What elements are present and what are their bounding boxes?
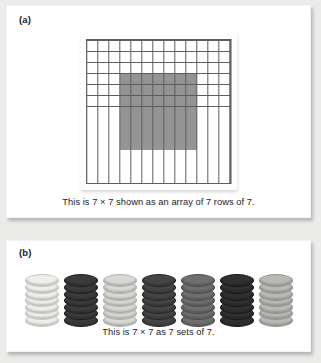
grid-cell [175, 41, 185, 51]
grid-cell-shaded [142, 96, 152, 106]
grid-cell [98, 150, 108, 160]
grid-cell [98, 139, 108, 149]
grid-cell-shaded [153, 107, 163, 117]
grid-cell [109, 63, 119, 73]
grid-cell [219, 117, 229, 127]
panel-b-label: (b) [19, 247, 31, 258]
grid-cell [208, 52, 218, 62]
grid-cell [186, 161, 196, 171]
grid-cell [87, 117, 97, 127]
grid-cell [153, 172, 163, 182]
grid-cell [208, 172, 218, 182]
grid-cell [87, 150, 97, 160]
grid-cell [120, 63, 130, 73]
grid-cell [87, 85, 97, 95]
grid-cell [109, 41, 119, 51]
grid-cell-shaded [142, 139, 152, 149]
grid-cell-shaded [175, 139, 185, 149]
counter-stacks [7, 267, 310, 327]
grid-cell [98, 74, 108, 84]
grid-cell-shaded [164, 128, 174, 138]
grid-cell [153, 52, 163, 62]
grid-cell [197, 96, 207, 106]
grid-cell [98, 96, 108, 106]
grid-cell-shaded [142, 128, 152, 138]
grid-cell [120, 41, 130, 51]
grid-cell [219, 161, 229, 171]
grid-cell-shaded [142, 74, 152, 84]
grid-cell [142, 161, 152, 171]
grid-cell [109, 74, 119, 84]
grid-cell [109, 161, 119, 171]
grid-cell [208, 117, 218, 127]
grid-cell-shaded [164, 74, 174, 84]
grid-cell [197, 85, 207, 95]
grid-cell [87, 172, 97, 182]
panel-b-caption: This is 7 × 7 as 7 sets of 7. [7, 327, 310, 337]
figure-page: (a) This is 7 × 7 shown as an array of 7… [0, 0, 321, 363]
stack-5 [181, 269, 215, 327]
grid-cell-shaded [153, 74, 163, 84]
panel-b: (b) This is 7 × 7 as 7 sets of 7. [6, 240, 311, 352]
panel-a: (a) This is 7 × 7 shown as an array of 7… [6, 5, 311, 218]
grid-cell [98, 172, 108, 182]
grid-cell [131, 41, 141, 51]
grid-cell [98, 52, 108, 62]
grid-cell [208, 63, 218, 73]
grid-cell [197, 52, 207, 62]
grid-cell [153, 63, 163, 73]
grid-cell [208, 128, 218, 138]
grid-cell [142, 172, 152, 182]
grid-cell-shaded [153, 128, 163, 138]
grid-cell [186, 172, 196, 182]
stack-3 [103, 269, 137, 327]
grid-cell-shaded [142, 107, 152, 117]
grid-cell [131, 161, 141, 171]
grid-cell [109, 150, 119, 160]
grid-cell-shaded [142, 85, 152, 95]
grid-cell [87, 52, 97, 62]
grid-cell [87, 139, 97, 149]
grid-cell [109, 172, 119, 182]
grid-cell [219, 74, 229, 84]
grid-cell-shaded [164, 96, 174, 106]
grid-cell [219, 41, 229, 51]
grid-cell [131, 63, 141, 73]
grid-cell [164, 150, 174, 160]
grid-cell-shaded [186, 107, 196, 117]
grid-cell [109, 139, 119, 149]
grid-cell [164, 63, 174, 73]
grid-cell [219, 128, 229, 138]
grid-cell [219, 85, 229, 95]
grid-cell [175, 150, 185, 160]
grid-cell [87, 96, 97, 106]
grid-cell-shaded [186, 139, 196, 149]
grid-cell [142, 150, 152, 160]
grid-cell [142, 63, 152, 73]
grid-cell [208, 139, 218, 149]
grid-cell [87, 107, 97, 117]
grid-cell [219, 107, 229, 117]
grid-cell [109, 128, 119, 138]
grid-cell [197, 63, 207, 73]
grid-cell-shaded [175, 128, 185, 138]
grid-cell [131, 52, 141, 62]
grid-cell [208, 96, 218, 106]
array-grid [86, 39, 231, 184]
grid-cell-shaded [175, 74, 185, 84]
grid-cell [208, 107, 218, 117]
stack-7 [259, 269, 293, 327]
grid-cell-shaded [120, 107, 130, 117]
grid-cell-shaded [120, 96, 130, 106]
grid-cell-shaded [131, 85, 141, 95]
grid-cell-shaded [164, 107, 174, 117]
grid-cell [175, 172, 185, 182]
grid-cell-shaded [120, 128, 130, 138]
grid-cell-shaded [120, 117, 130, 127]
grid-cell [175, 63, 185, 73]
grid-cell [186, 150, 196, 160]
grid-cell [197, 41, 207, 51]
grid-cell [219, 96, 229, 106]
grid-cell [164, 52, 174, 62]
grid-cell [197, 172, 207, 182]
